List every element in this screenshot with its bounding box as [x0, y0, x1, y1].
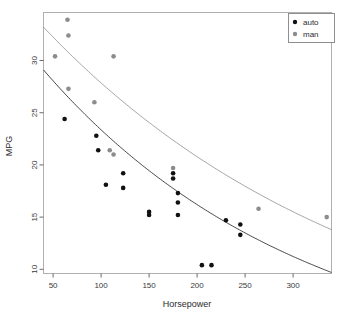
x-tick-label: 250 [238, 281, 252, 290]
legend-label-auto: auto [303, 18, 319, 27]
data-point-man [65, 18, 70, 23]
data-point-man [66, 33, 71, 38]
x-axis-ticks: 50100150200250300 [49, 274, 301, 290]
legend-marker-man [293, 32, 297, 36]
data-point-man [92, 100, 97, 105]
data-point-auto [171, 176, 176, 181]
data-point-auto [96, 148, 101, 153]
x-tick-label: 100 [94, 281, 108, 290]
x-tick-label: 150 [142, 281, 156, 290]
data-point-man [53, 54, 58, 59]
data-point-man [171, 166, 176, 171]
data-point-man [111, 54, 116, 59]
legend-label-man: man [303, 30, 319, 39]
data-point-auto [209, 263, 214, 268]
x-tick-label: 200 [190, 281, 204, 290]
x-axis-title: Horsepower [163, 299, 212, 309]
data-point-auto [238, 233, 243, 238]
data-point-man [66, 86, 71, 91]
y-tick-label: 25 [30, 108, 39, 117]
y-axis-ticks: 1015202530 [30, 56, 44, 274]
data-point-man [111, 152, 116, 157]
chart-container: 50100150200250300 1015202530 Horsepower … [0, 0, 341, 319]
data-point-auto [176, 200, 181, 205]
y-axis-title: MPG [4, 136, 14, 157]
data-point-auto [121, 186, 126, 191]
scatter-plot: 50100150200250300 1015202530 Horsepower … [0, 0, 341, 319]
x-tick-label: 50 [49, 281, 58, 290]
data-point-auto [147, 213, 152, 218]
y-tick-label: 10 [30, 264, 39, 273]
data-point-auto [121, 171, 126, 176]
data-point-auto [176, 213, 181, 218]
y-tick-label: 20 [30, 160, 39, 169]
data-point-auto [171, 171, 176, 176]
data-point-man [107, 148, 112, 153]
data-point-auto [62, 117, 67, 122]
data-point-auto [224, 218, 229, 223]
data-point-auto [200, 263, 205, 268]
x-tick-label: 300 [286, 281, 300, 290]
data-point-man [324, 215, 329, 220]
data-point-man [256, 206, 261, 211]
data-point-auto [94, 133, 99, 138]
data-point-auto [176, 191, 181, 196]
y-tick-label: 30 [30, 56, 39, 65]
data-point-auto [238, 222, 243, 227]
legend-marker-auto [293, 20, 297, 24]
plot-frame [44, 13, 332, 274]
data-point-auto [104, 182, 109, 187]
y-tick-label: 15 [30, 212, 39, 221]
chart-legend: automan [289, 14, 335, 43]
